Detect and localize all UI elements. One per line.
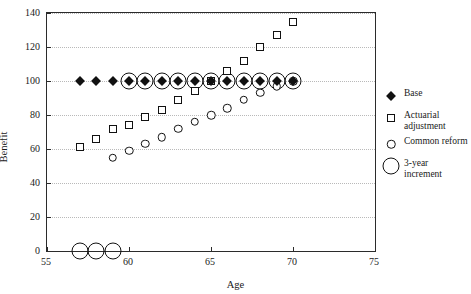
x-axis-tick	[293, 247, 294, 252]
x-axis-tick	[375, 247, 376, 252]
marker-common-reform	[387, 140, 396, 149]
legend-label: Base	[404, 88, 468, 99]
marker-base	[75, 76, 85, 86]
y-axis-tick	[46, 183, 51, 184]
legend-item: Actuarial adjustment	[382, 110, 468, 132]
marker-actuarial-adjustment	[158, 106, 166, 114]
x-axis-tick-label: 65	[205, 256, 215, 267]
marker-3-year-increment	[88, 243, 105, 260]
y-axis-tick	[46, 217, 51, 218]
marker-common-reform	[223, 104, 232, 113]
marker-common-reform	[125, 146, 134, 155]
y-axis-tick-label: 20	[14, 211, 40, 222]
marker-actuarial-adjustment	[273, 31, 281, 39]
marker-actuarial-adjustment	[92, 135, 100, 143]
legend-label: Actuarial adjustment	[404, 110, 468, 132]
marker-actuarial-adjustment	[240, 57, 248, 65]
y-axis-tick-label: 80	[14, 109, 40, 120]
marker-common-reform	[174, 124, 183, 133]
marker-3-year-increment	[383, 158, 400, 175]
marker-common-reform	[158, 133, 167, 142]
legend-marker	[382, 159, 402, 173]
marker-3-year-increment	[71, 243, 88, 260]
y-axis-tick-label: 60	[14, 143, 40, 154]
y-axis-tick-label: 0	[14, 245, 40, 256]
x-axis-tick	[211, 247, 212, 252]
marker-common-reform	[240, 95, 249, 104]
marker-base	[386, 91, 396, 101]
y-axis-tick-label: 120	[14, 41, 40, 52]
marker-3-year-increment	[104, 243, 121, 260]
marker-common-reform	[256, 89, 265, 98]
legend-item: 3-year increment	[382, 158, 468, 180]
marker-common-reform	[190, 118, 199, 127]
legend-label: 3-year increment	[404, 158, 468, 180]
y-axis-title: Benefit	[0, 132, 9, 163]
marker-actuarial-adjustment	[256, 43, 264, 51]
x-axis-title: Age	[0, 279, 471, 290]
marker-common-reform	[141, 140, 150, 149]
marker-actuarial-adjustment	[76, 143, 84, 151]
legend-marker	[382, 89, 402, 103]
x-axis-tick-label: 60	[123, 256, 133, 267]
marker-actuarial-adjustment	[289, 18, 297, 26]
marker-common-reform	[207, 111, 216, 120]
y-axis-tick	[46, 115, 51, 116]
y-axis-tick	[46, 13, 51, 14]
marker-actuarial-adjustment	[387, 114, 395, 122]
chart-container: Benefit Age BaseActuarial adjustmentComm…	[0, 0, 471, 294]
grid-line	[47, 47, 375, 48]
y-axis-tick	[46, 81, 51, 82]
x-axis-tick-label: 75	[369, 256, 379, 267]
marker-actuarial-adjustment	[223, 67, 231, 75]
marker-actuarial-adjustment	[174, 96, 182, 104]
legend-label: Common reform	[404, 136, 468, 147]
marker-actuarial-adjustment	[191, 87, 199, 95]
legend-item: Common reform	[382, 136, 468, 154]
y-axis-tick	[46, 47, 51, 48]
marker-actuarial-adjustment	[109, 125, 117, 133]
marker-base	[108, 76, 118, 86]
x-axis-tick	[129, 247, 130, 252]
legend-marker	[382, 111, 402, 125]
x-axis-tick	[47, 247, 48, 252]
plot-area	[46, 12, 376, 252]
grid-line	[47, 149, 375, 150]
legend-item: Base	[382, 88, 468, 106]
grid-line	[47, 217, 375, 218]
grid-line	[47, 13, 375, 14]
y-axis-tick-label: 100	[14, 75, 40, 86]
y-axis-tick-label: 40	[14, 177, 40, 188]
marker-actuarial-adjustment	[141, 113, 149, 121]
marker-base	[91, 76, 101, 86]
legend-marker	[382, 137, 402, 151]
chart-legend: BaseActuarial adjustmentCommon reform3-y…	[382, 88, 468, 184]
marker-actuarial-adjustment	[125, 121, 133, 129]
y-axis-tick-label: 140	[14, 7, 40, 18]
y-axis-tick	[46, 149, 51, 150]
x-axis-tick-label: 55	[41, 256, 51, 267]
marker-common-reform	[108, 153, 117, 162]
grid-line	[47, 183, 375, 184]
x-axis-tick-label: 70	[287, 256, 297, 267]
